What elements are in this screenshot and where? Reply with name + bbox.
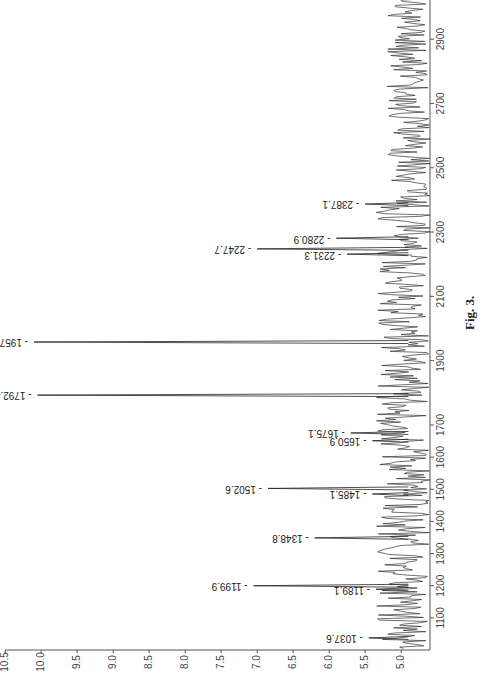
- peak-label: - 1792.8: [0, 390, 32, 401]
- x-tick-label: 1900: [435, 349, 446, 372]
- x-tick-label: 2500: [435, 156, 446, 179]
- x-tick-label: 2700: [435, 92, 446, 115]
- peak-label: - 2280.9: [293, 234, 330, 245]
- y-tick-label: 8.0: [179, 655, 190, 669]
- x-tick-label: 2300: [435, 220, 446, 243]
- peak: [34, 341, 408, 344]
- x-tick-label: 1700: [435, 413, 446, 436]
- peak-label: - 2247.7: [214, 244, 251, 255]
- peak: [372, 493, 408, 496]
- peak-label: - 2231.3: [304, 249, 341, 260]
- figure-caption: Fig. 3.: [462, 296, 478, 330]
- peak-label: - 1957.9: [0, 337, 28, 348]
- y-tick-label: 5.5: [359, 655, 370, 669]
- peak: [336, 237, 408, 240]
- peak-label: - 1348.8: [272, 533, 309, 544]
- peak-lines: [34, 0, 408, 639]
- peak-label: - 1037.6: [326, 633, 363, 644]
- y-tick-label: 7.5: [215, 655, 226, 669]
- x-tick-label: 1300: [435, 542, 446, 565]
- peak-label: - 1675.1: [308, 428, 345, 439]
- peak-labels: - 1037.6- 1189.1- 1199.9- 1348.8- 1485.1…: [0, 0, 384, 644]
- x-tick-label: 1600: [435, 446, 446, 469]
- peak-label: - 1189.1: [334, 585, 370, 596]
- x-tick-label: 1200: [435, 574, 446, 597]
- y-tick-label: 7.0: [251, 655, 262, 669]
- y-tick-label: 6.0: [323, 655, 334, 669]
- y-tick-label: 6.5: [287, 655, 298, 669]
- y-tick-label: 10.0: [35, 652, 46, 672]
- y-tick-label: 9.0: [107, 655, 118, 669]
- y-tick-label: 8.5: [143, 655, 154, 669]
- baseline-noise-trace: [376, 0, 430, 648]
- peak: [254, 584, 409, 587]
- y-tick-label: 5.0: [395, 655, 406, 669]
- x-tick-label: 1500: [435, 478, 446, 501]
- x-tick-label: 2100: [435, 285, 446, 308]
- peak-label: - 2387.1: [322, 199, 359, 210]
- x-tick-label: 2900: [435, 28, 446, 51]
- peak: [369, 636, 409, 639]
- x-tick-label: 1100: [435, 607, 446, 629]
- peak-label: - 1199.9: [211, 581, 247, 592]
- peak: [372, 439, 408, 442]
- x-tick-label: 1400: [435, 510, 446, 533]
- peak-label: - 1485.1: [329, 489, 366, 500]
- y-tick-label: 10.5: [0, 652, 10, 672]
- peak-label: - 1502.6: [225, 484, 262, 495]
- peak: [38, 394, 409, 397]
- mass-spectrum-chart: 1100120013001400150016001700190021002300…: [0, 0, 487, 686]
- y-tick-label: 9.5: [71, 655, 82, 669]
